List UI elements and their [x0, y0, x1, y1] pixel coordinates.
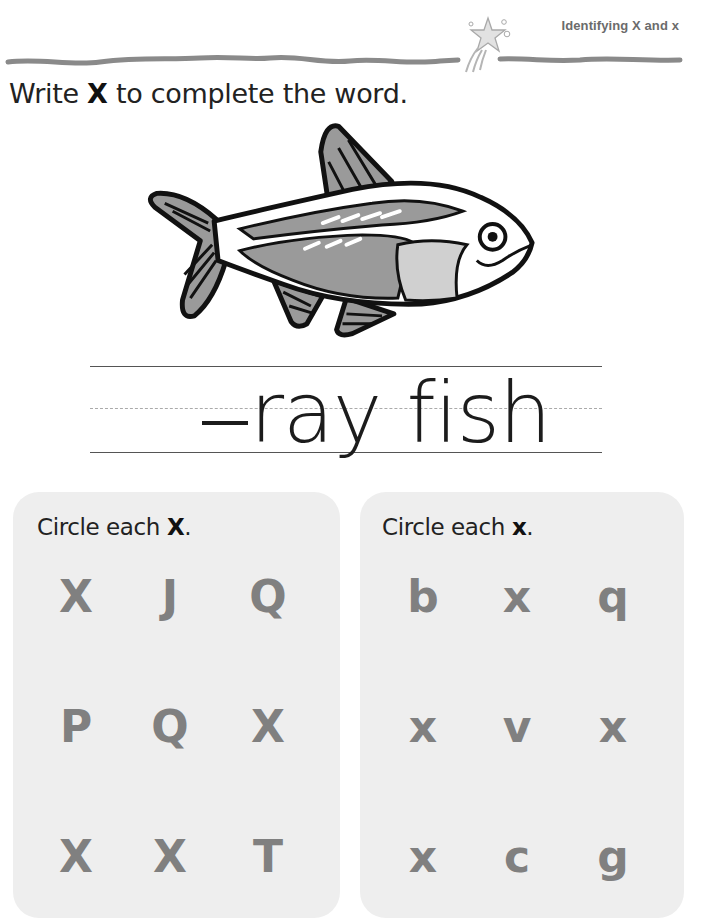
panel-title-suffix: . [526, 514, 533, 540]
letter-option[interactable]: q [578, 572, 648, 622]
panel-title-letter: X [167, 514, 184, 540]
panel-title-letter: x [512, 514, 526, 540]
letter-option[interactable]: P [41, 702, 111, 752]
letter-option[interactable]: X [41, 832, 111, 882]
instruction-letter: X [87, 78, 108, 109]
decorative-wave-divider [0, 48, 701, 72]
letter-option[interactable]: x [482, 572, 552, 622]
fish-icon [145, 112, 540, 340]
letter-grid-uppercase: X J Q P Q X X X T [13, 572, 340, 898]
letter-option[interactable]: X [233, 702, 303, 752]
letter-option[interactable]: v [482, 702, 552, 752]
instruction-suffix: to complete the word. [108, 78, 408, 109]
blank-letter-slot[interactable] [202, 421, 248, 425]
circle-uppercase-panel: Circle each X. X J Q P Q X X X T [13, 492, 340, 918]
letter-option[interactable]: x [388, 702, 458, 752]
panel-title-uppercase: Circle each X. [37, 514, 191, 540]
handwriting-lines: ray fish [90, 366, 602, 456]
instruction-text: Write X to complete the word. [9, 78, 408, 109]
panel-title-prefix: Circle each [37, 514, 167, 540]
letter-option[interactable]: x [388, 832, 458, 882]
letter-option[interactable]: c [482, 832, 552, 882]
letter-option[interactable]: x [578, 702, 648, 752]
circle-lowercase-panel: Circle each x. b x q x v x x c g [360, 492, 684, 918]
letter-option[interactable]: X [41, 572, 111, 622]
panel-title-prefix: Circle each [382, 514, 512, 540]
letter-option[interactable]: Q [135, 702, 205, 752]
letter-grid-lowercase: b x q x v x x c g [360, 572, 684, 898]
word-remainder: ray fish [250, 365, 551, 462]
partial-word: ray fish [202, 374, 551, 454]
page-header-title: Identifying X and x [562, 18, 679, 33]
letter-option[interactable]: Q [233, 572, 303, 622]
instruction-prefix: Write [9, 78, 87, 109]
letter-option[interactable]: T [233, 832, 303, 882]
panel-title-lowercase: Circle each x. [382, 514, 533, 540]
letter-option[interactable]: X [135, 832, 205, 882]
panel-title-suffix: . [184, 514, 191, 540]
letter-option[interactable]: b [388, 572, 458, 622]
letter-option[interactable]: g [578, 832, 648, 882]
letter-option[interactable]: J [135, 572, 205, 622]
